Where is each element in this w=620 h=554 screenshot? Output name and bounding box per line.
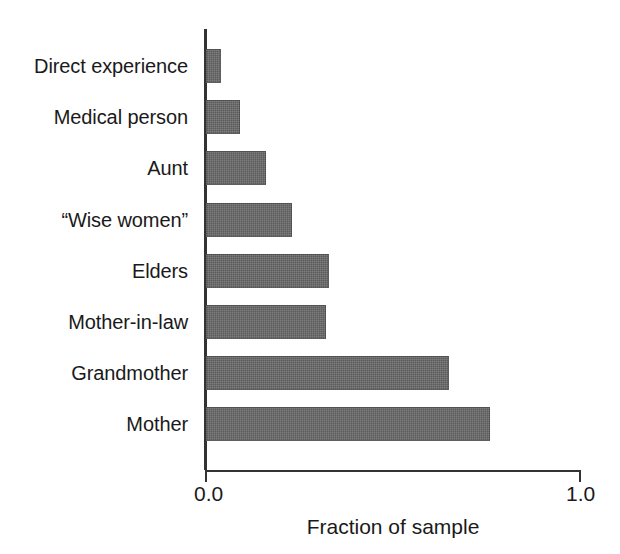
x-tick-label-min: 0.0 bbox=[194, 482, 223, 506]
x-axis-tick-1 bbox=[579, 470, 581, 482]
bar[interactable] bbox=[206, 49, 221, 83]
category-label: Grandmother bbox=[0, 356, 188, 390]
bar[interactable] bbox=[206, 407, 490, 441]
category-label: Aunt bbox=[0, 151, 188, 185]
bar-chart-figure: Direct experienceMedical personAunt“Wise… bbox=[0, 0, 620, 554]
x-axis-title: Fraction of sample bbox=[206, 515, 580, 539]
x-axis-line bbox=[205, 470, 581, 472]
bar-row: “Wise women” bbox=[0, 203, 620, 237]
bar[interactable] bbox=[206, 356, 449, 390]
category-label: Medical person bbox=[0, 100, 188, 134]
bar-row: Mother-in-law bbox=[0, 305, 620, 339]
bar-row: Grandmother bbox=[0, 356, 620, 390]
bar[interactable] bbox=[206, 305, 326, 339]
bar-row: Direct experience bbox=[0, 49, 620, 83]
bar-row: Mother bbox=[0, 407, 620, 441]
category-label: Elders bbox=[0, 254, 188, 288]
x-tick-label-max: 1.0 bbox=[566, 482, 595, 506]
y-axis-line bbox=[204, 29, 207, 470]
category-label: “Wise women” bbox=[0, 203, 188, 237]
category-label: Mother bbox=[0, 407, 188, 441]
category-label: Mother-in-law bbox=[0, 305, 188, 339]
category-label: Direct experience bbox=[0, 49, 188, 83]
bar[interactable] bbox=[206, 203, 292, 237]
bar[interactable] bbox=[206, 254, 329, 288]
bar[interactable] bbox=[206, 151, 266, 185]
bar-row: Elders bbox=[0, 254, 620, 288]
bar[interactable] bbox=[206, 100, 240, 134]
x-axis-tick-0 bbox=[205, 470, 207, 482]
bar-row: Medical person bbox=[0, 100, 620, 134]
bar-row: Aunt bbox=[0, 151, 620, 185]
